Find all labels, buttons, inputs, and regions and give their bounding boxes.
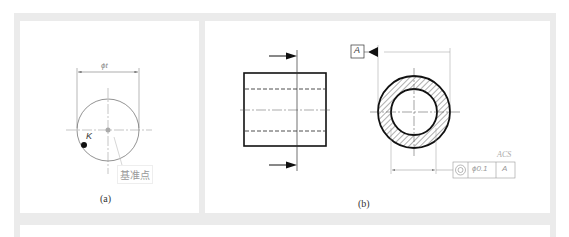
tolerance-datum: A xyxy=(502,164,507,173)
drawing-canvas xyxy=(0,0,569,237)
datum-label: A xyxy=(354,45,360,55)
panel-a-drawing xyxy=(66,68,152,174)
tolerance-value: ϕ0.1 xyxy=(472,164,488,173)
reference-point-label: 基准点 xyxy=(117,165,153,184)
caption-b: (b) xyxy=(358,198,370,209)
point-k-icon xyxy=(81,142,87,148)
arrow-right-icon xyxy=(286,53,297,60)
panel-b-side-view xyxy=(240,50,332,171)
center-point-icon xyxy=(106,128,111,133)
datum-triangle-icon xyxy=(368,47,378,57)
caption-a: (a) xyxy=(100,193,111,204)
arrow-right-icon xyxy=(286,162,297,169)
panel-b-ring-view xyxy=(364,45,460,174)
acs-annotation: ACS xyxy=(497,150,511,159)
dimension-label: ϕt xyxy=(101,61,108,70)
point-k-label: K xyxy=(86,131,92,141)
